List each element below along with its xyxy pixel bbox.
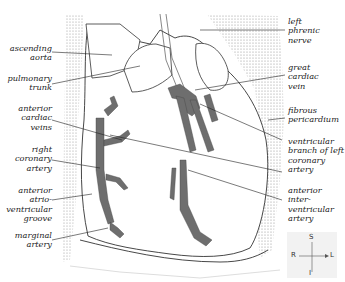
label-great-cardiac-vein: great cardiac vein (288, 63, 319, 91)
compass-inferior: I (309, 269, 311, 277)
label-anterior-atrioventricular-groove: anterior atrio- ventricular groove (0, 186, 52, 224)
pericardium-left-edge (62, 14, 84, 262)
label-anterior-interventricular-artery: anterior inter- ventricular artery (288, 186, 334, 224)
compass-right: R (291, 251, 296, 259)
compass-superior: S (309, 233, 313, 241)
heart-diagram: ascending aorta pulmonary trunk anterior… (0, 0, 345, 282)
compass-left: L (330, 251, 334, 259)
label-pulmonary-trunk: pulmonary trunk (0, 74, 52, 93)
orientation-compass: S I R L (287, 232, 337, 278)
label-right-coronary-artery: right coronary artery (0, 145, 52, 173)
label-ascending-aorta: ascending aorta (0, 44, 52, 63)
label-fibrous-pericardium: fibrous pericardium (288, 106, 339, 125)
label-marginal-artery: marginal artery (0, 231, 52, 250)
label-ventricular-branch-left-coronary-artery: ventricular branch of left coronary arte… (288, 137, 344, 175)
label-left-phrenic-nerve: left phrenic nerve (288, 17, 320, 45)
label-anterior-cardiac-veins: anterior cardiac veins (0, 104, 52, 132)
